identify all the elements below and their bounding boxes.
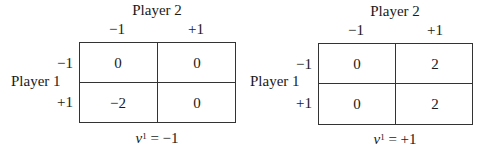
caption-value: = −1: [147, 130, 179, 146]
col-header: −1: [348, 23, 364, 38]
caption-superscript: 1: [380, 132, 385, 142]
grid-divider-vertical: [395, 44, 396, 124]
player1-label: Player 1: [250, 74, 300, 89]
caption-variable: v: [373, 131, 380, 147]
col-header: −1: [109, 22, 125, 37]
grid-divider-vertical: [157, 43, 158, 122]
payoff-cell: 0: [193, 96, 201, 111]
payoff-grid: 0 0 −2 0: [79, 42, 236, 123]
payoff-cell: 0: [353, 57, 361, 72]
player1-label: Player 1: [11, 74, 61, 89]
payoff-cell: 2: [431, 97, 439, 112]
value-caption: v1 = +1: [373, 132, 416, 147]
payoff-cell: 2: [431, 57, 439, 72]
payoff-cell: −2: [110, 96, 126, 111]
row-header: +1: [296, 96, 312, 111]
caption-superscript: 1: [142, 131, 147, 141]
payoff-cell: 0: [353, 97, 361, 112]
row-header: +1: [57, 95, 73, 110]
payoff-cell: 0: [193, 56, 201, 71]
col-header: +1: [427, 23, 443, 38]
col-header: +1: [188, 22, 204, 37]
row-header: −1: [57, 56, 73, 71]
payoff-cell: 0: [114, 56, 122, 71]
caption-variable: v: [135, 130, 142, 146]
caption-value: = +1: [385, 131, 417, 147]
player2-label: Player 2: [132, 3, 182, 18]
value-caption: v1 = −1: [135, 131, 178, 146]
row-header: −1: [296, 57, 312, 72]
player2-label: Player 2: [370, 4, 420, 19]
payoff-grid: 0 2 0 2: [318, 43, 473, 125]
